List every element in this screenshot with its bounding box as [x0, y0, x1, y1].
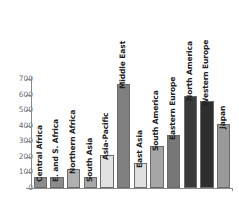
y-tick-mark [26, 188, 32, 189]
x-axis-line [31, 188, 233, 189]
y-tick-mark [26, 157, 32, 158]
bar-category-label: Western Europe [202, 40, 210, 106]
y-tick-mark [26, 95, 32, 96]
y-tick-mark [26, 110, 32, 111]
bar-category-label: Asia-Pacific [102, 113, 110, 160]
bar [167, 135, 181, 188]
bar-category-label: Central Africa [36, 125, 44, 182]
bar [150, 146, 164, 188]
bar-chart: 0100200300400500600700 Central AfricaE. … [0, 0, 239, 212]
bar-category-label: Japan [219, 106, 227, 129]
bar-category-label: Middle East [119, 40, 127, 88]
bar-category-label: Eastern Europe [169, 76, 177, 139]
bar-category-label: North America [186, 41, 194, 101]
y-axis-ticks: 0100200300400500600700 [0, 0, 33, 212]
bar [217, 124, 231, 188]
y-tick-mark [26, 126, 32, 127]
bar-category-label: E. and S. Africa [52, 119, 60, 182]
y-tick-mark [26, 172, 32, 173]
bar-category-label: Northern Africa [69, 110, 77, 174]
bar [117, 84, 131, 188]
y-tick-mark [26, 141, 32, 142]
bar [200, 101, 214, 188]
bars-container: Central AfricaE. and S. AfricaNorthern A… [32, 0, 232, 188]
x-axis-end-tick [232, 188, 233, 191]
bar-category-label: South America [152, 90, 160, 151]
bar [184, 96, 198, 188]
y-tick-mark [26, 79, 32, 80]
bar-category-label: South Asia [86, 138, 94, 182]
bar-category-label: East Asia [136, 130, 144, 168]
